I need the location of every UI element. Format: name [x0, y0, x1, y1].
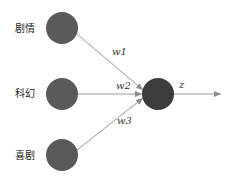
output-label: z [178, 79, 185, 90]
input-node-1 [46, 12, 78, 44]
perceptron-diagram: 剧情 科幻 喜剧 w1 w2 w3 z [0, 0, 233, 178]
output-node [142, 78, 174, 110]
edge-input-3 [77, 98, 143, 150]
input-label-2: 科幻 [15, 87, 35, 99]
input-node-2 [46, 78, 78, 110]
weight-label-1: w1 [112, 46, 127, 57]
input-label-1: 剧情 [15, 22, 35, 34]
input-label-3: 喜剧 [15, 149, 35, 161]
weight-label-3: w3 [117, 115, 132, 126]
weight-label-2: w2 [116, 80, 131, 91]
input-node-3 [46, 139, 78, 171]
edge-input-1 [77, 34, 143, 90]
